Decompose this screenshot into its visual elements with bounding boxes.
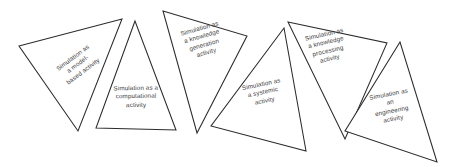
- triangles-svg: [0, 0, 454, 167]
- simulation-perspectives-diagram: Simulation as a model- based activity Si…: [0, 0, 454, 167]
